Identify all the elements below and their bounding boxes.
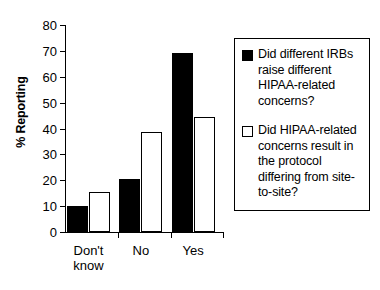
x-tick-mark: [118, 232, 119, 238]
y-tick-mark: [60, 25, 66, 26]
y-axis-title: % Reporting: [14, 47, 28, 177]
bar: [194, 117, 215, 232]
bar-group: [172, 25, 215, 232]
legend-entry[interactable]: Did different IRBsraise differentHIPAA-r…: [242, 47, 362, 109]
category-label-line: know: [73, 258, 103, 273]
y-tick-label: 10: [43, 200, 57, 213]
category-label: Yes: [183, 243, 204, 258]
category-label: No: [133, 243, 150, 258]
y-tick-mark: [60, 206, 66, 207]
y-tick-label: 30: [43, 148, 57, 161]
y-tick-mark: [60, 180, 66, 181]
y-tick-label: 20: [43, 174, 57, 187]
legend-entry[interactable]: Did HIPAA-relatedconcerns result inthe p…: [242, 123, 362, 201]
bar: [119, 179, 140, 232]
legend-swatch-icon: [242, 126, 253, 137]
y-tick-label: 0: [50, 226, 57, 239]
bar-group: [67, 25, 110, 232]
legend-label: Did different IRBsraise differentHIPAA-r…: [258, 47, 353, 109]
y-tick-mark: [60, 232, 66, 233]
bar-chart-figure: % Reporting 01020304050607080 Don'tknowN…: [0, 0, 380, 290]
y-tick-mark: [60, 103, 66, 104]
y-tick-label: 40: [43, 122, 57, 135]
y-tick-mark: [60, 77, 66, 78]
y-tick-mark: [60, 154, 66, 155]
x-tick-mark: [223, 232, 224, 238]
chart-legend: Did different IRBsraise differentHIPAA-r…: [234, 38, 370, 211]
category-label: Don'tknow: [73, 243, 103, 273]
bar: [172, 53, 193, 232]
bar: [67, 206, 88, 232]
y-tick-label: 80: [43, 19, 57, 32]
y-tick-label: 60: [43, 70, 57, 83]
x-tick-mark: [171, 232, 172, 238]
category-label-line: Don't: [73, 243, 103, 258]
bar: [89, 192, 110, 232]
bar-group: [119, 25, 162, 232]
y-tick-label: 70: [43, 44, 57, 57]
y-tick-mark: [60, 51, 66, 52]
y-tick-mark: [60, 129, 66, 130]
plot-area: 01020304050607080 Don'tknowNoYes: [65, 25, 223, 233]
legend-swatch-icon: [242, 50, 253, 61]
bar: [141, 132, 162, 232]
category-label-line: Yes: [183, 243, 204, 258]
y-tick-label: 50: [43, 96, 57, 109]
legend-label: Did HIPAA-relatedconcerns result inthe p…: [258, 123, 357, 201]
category-label-line: No: [133, 243, 150, 258]
